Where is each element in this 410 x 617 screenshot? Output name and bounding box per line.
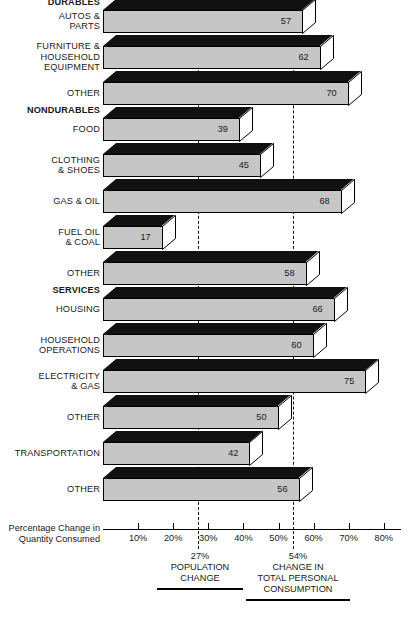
callout-stub-27pct [198,531,199,549]
axis-tick-10 [138,523,139,530]
axis-tick-50 [279,523,280,530]
axis-tick-label-60: 60% [294,533,334,543]
axis-tick-label-40: 40% [223,533,263,543]
axis-tick-20 [173,523,174,530]
callout-percent: 27% [152,551,248,562]
axis-tick-80 [384,523,385,530]
callout-underline-54pct [246,599,350,601]
axis-tick-label-30: 30% [188,533,228,543]
axis-tick-label-70: 70% [329,533,369,543]
axis-tick-label-10: 10% [118,533,158,543]
callout-54pct: 54%CHANGE IN TOTAL PERSONAL CONSUMPTION [240,551,356,596]
axis-tick-60 [314,523,315,530]
axis-tick-30 [208,523,209,530]
callout-underline-27pct [157,588,243,590]
callout-27pct: 27%POPULATION CHANGE [152,551,248,585]
axis-tick-label-20: 20% [153,533,193,543]
callout-text: POPULATION CHANGE [171,562,230,583]
percentage-change-bar-chart: 57AUTOS & PARTSDURABLES62FURNITURE & HOU… [0,0,410,617]
axis-tick-40 [243,523,244,530]
axis-tick-70 [349,523,350,530]
axis-tick-label-80: 80% [364,533,404,543]
axis-caption: Percentage Change in Quantity Consumed [0,523,100,545]
x-axis: 10%20%30%40%50%60%70%80%Percentage Chang… [0,0,410,617]
callout-text: CHANGE IN TOTAL PERSONAL CONSUMPTION [257,562,338,594]
x-axis-line [103,529,401,530]
callout-stub-54pct [293,531,294,549]
callout-percent: 54% [240,551,356,562]
